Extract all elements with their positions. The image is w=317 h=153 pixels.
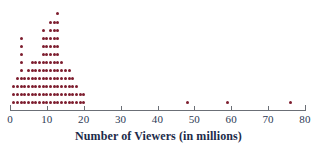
data-dot [56, 101, 59, 104]
data-dot [53, 29, 56, 32]
data-dot [34, 77, 37, 80]
data-dot [31, 93, 34, 96]
data-dot [68, 69, 71, 72]
data-dot [42, 29, 45, 32]
data-dot [56, 12, 59, 15]
data-dot [45, 77, 48, 80]
data-dot [42, 93, 45, 96]
data-dot [68, 85, 71, 88]
data-dot [20, 69, 23, 72]
data-dot [53, 101, 56, 104]
data-dot [34, 85, 37, 88]
x-tick-30 [121, 106, 122, 111]
data-dot [45, 37, 48, 40]
data-dot [38, 93, 41, 96]
data-dot [42, 37, 45, 40]
data-dot [49, 77, 52, 80]
data-dot [45, 93, 48, 96]
data-dot [64, 77, 67, 80]
dot-plot-chart: 01020304050607080 Number of Viewers (in … [0, 0, 317, 153]
data-dot [49, 85, 52, 88]
data-dot [42, 53, 45, 56]
data-dot [289, 101, 292, 104]
x-tick-80 [305, 106, 306, 111]
data-dot [20, 93, 23, 96]
data-dot [60, 61, 63, 64]
data-dot [34, 93, 37, 96]
x-tick-60 [231, 106, 232, 111]
data-dot [27, 85, 30, 88]
data-dot [45, 69, 48, 72]
data-dot [16, 77, 19, 80]
data-dot [49, 21, 52, 24]
data-dot [12, 93, 15, 96]
data-dot [75, 85, 78, 88]
x-tick-70 [268, 106, 269, 111]
data-dot [56, 53, 59, 56]
data-dot [23, 77, 26, 80]
data-dot [53, 77, 56, 80]
data-dot [12, 85, 15, 88]
data-dot [38, 61, 41, 64]
data-dot [34, 101, 37, 104]
data-dot [53, 37, 56, 40]
data-dot [20, 61, 23, 64]
data-dot [27, 77, 30, 80]
data-dot [49, 69, 52, 72]
data-dot [31, 101, 34, 104]
data-dot [56, 85, 59, 88]
data-dot [42, 45, 45, 48]
data-dot [34, 61, 37, 64]
data-dot [16, 85, 19, 88]
data-dot [53, 85, 56, 88]
data-dot [27, 101, 30, 104]
x-tick-20 [84, 106, 85, 111]
data-dot [42, 61, 45, 64]
data-dot [12, 101, 15, 104]
data-dot [82, 101, 85, 104]
data-dot [64, 69, 67, 72]
data-dot [56, 61, 59, 64]
data-dot [20, 45, 23, 48]
data-dot [60, 69, 63, 72]
data-dot [42, 85, 45, 88]
x-tick-label-40: 40 [152, 113, 163, 125]
data-dot [38, 69, 41, 72]
data-dot [23, 85, 26, 88]
data-dot [82, 93, 85, 96]
data-dot [38, 85, 41, 88]
data-dot [16, 93, 19, 96]
data-dot [49, 53, 52, 56]
data-dot [49, 45, 52, 48]
data-dot [64, 85, 67, 88]
data-dot [20, 37, 23, 40]
data-dot [45, 101, 48, 104]
data-dot [64, 93, 67, 96]
data-dot [49, 61, 52, 64]
data-dot [16, 101, 19, 104]
data-dot [53, 53, 56, 56]
data-dot [27, 69, 30, 72]
x-tick-label-70: 70 [262, 113, 273, 125]
x-tick-0 [10, 106, 11, 111]
data-dot [23, 93, 26, 96]
data-dot [53, 21, 56, 24]
data-dot [45, 85, 48, 88]
data-dot [71, 85, 74, 88]
data-dot [226, 101, 229, 104]
data-dot [56, 45, 59, 48]
x-tick-10 [47, 106, 48, 111]
x-tick-label-80: 80 [299, 113, 310, 125]
data-dot [71, 93, 74, 96]
data-dot [49, 101, 52, 104]
data-dot [42, 101, 45, 104]
data-dot [27, 93, 30, 96]
x-tick-label-20: 20 [78, 113, 89, 125]
x-tick-40 [158, 106, 159, 111]
data-dot [71, 101, 74, 104]
x-tick-label-30: 30 [115, 113, 126, 125]
x-axis-title: Number of Viewers (in millions) [0, 129, 317, 144]
data-dot [71, 77, 74, 80]
data-dot [53, 61, 56, 64]
data-dot [20, 53, 23, 56]
